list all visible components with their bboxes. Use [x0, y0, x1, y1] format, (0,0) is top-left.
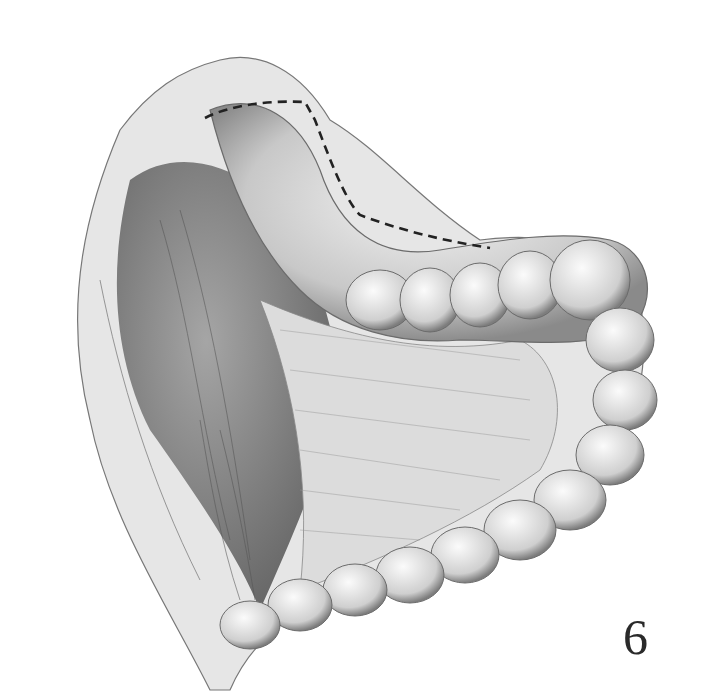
figure-number: 6 — [623, 612, 648, 662]
anatomical-illustration — [0, 0, 710, 694]
